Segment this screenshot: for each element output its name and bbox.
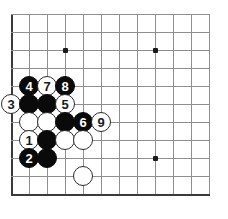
white-stone[interactable] (73, 130, 93, 150)
stone-move-number: 3 (7, 97, 14, 110)
black-stone[interactable] (55, 112, 75, 132)
white-stone[interactable] (73, 166, 93, 186)
black-stone[interactable] (37, 94, 57, 114)
stone-layer: 478356912 (0, 0, 228, 219)
stone-move-number: 4 (25, 79, 32, 92)
numbered-stone-9[interactable]: 9 (91, 112, 111, 132)
numbered-stone-1[interactable]: 1 (19, 130, 39, 150)
numbered-stone-2[interactable]: 2 (19, 148, 39, 168)
black-stone[interactable] (37, 148, 57, 168)
numbered-stone-5[interactable]: 5 (55, 94, 75, 114)
stone-move-number: 1 (25, 133, 32, 146)
numbered-stone-4[interactable]: 4 (19, 76, 39, 96)
go-board-diagram: 478356912 (0, 0, 228, 219)
black-stone[interactable] (19, 94, 39, 114)
numbered-stone-6[interactable]: 6 (73, 112, 93, 132)
stone-move-number: 2 (25, 151, 32, 164)
white-stone[interactable] (37, 112, 57, 132)
numbered-stone-3[interactable]: 3 (1, 94, 21, 114)
stone-move-number: 8 (61, 79, 68, 92)
numbered-stone-7[interactable]: 7 (37, 76, 57, 96)
stone-move-number: 7 (43, 79, 50, 92)
white-stone[interactable] (55, 130, 75, 150)
stone-move-number: 5 (61, 97, 68, 110)
stone-move-number: 6 (79, 115, 86, 128)
stone-move-number: 9 (97, 115, 104, 128)
white-stone[interactable] (19, 112, 39, 132)
numbered-stone-8[interactable]: 8 (55, 76, 75, 96)
black-stone[interactable] (37, 130, 57, 150)
